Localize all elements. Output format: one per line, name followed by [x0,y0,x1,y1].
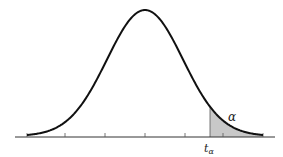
alpha-label: α [228,110,236,124]
t-distribution-diagram: α tα [0,0,283,157]
critical-value-label: tα [204,142,214,156]
critical-value-subscript: α [208,147,214,156]
upper-tail-shaded-region [210,107,263,137]
